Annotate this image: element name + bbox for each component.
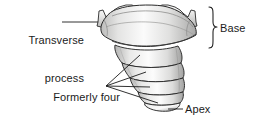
label-base: Base [220,22,254,35]
label-formerly-separate-segments: Formerly four separate segments [2,66,120,128]
coccyx-segments-group [115,45,185,111]
coccyx-diagram: Transverse process Formerly four separat… [0,0,255,128]
label-formerly-segments-line1: Formerly four [2,91,120,104]
base-bracket [209,7,217,48]
coccyx-base-group [97,5,197,47]
label-transverse-process-line1: Transverse [6,34,84,47]
label-apex: Apex [185,103,221,116]
